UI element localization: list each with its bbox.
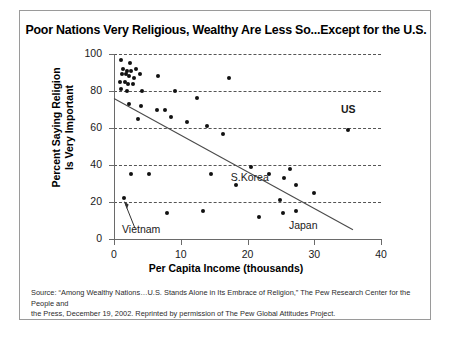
data-point <box>205 124 209 128</box>
data-point <box>173 89 177 93</box>
y-tick-20 <box>109 202 115 203</box>
x-tick-10 <box>181 239 182 245</box>
y-tick-label-100: 100 <box>72 47 102 59</box>
y-axis-title: Percent Saying Religion Is Very Importan… <box>50 48 75 208</box>
source-line-2: the Press, December 19, 2002. Reprinted … <box>31 309 423 320</box>
data-point <box>136 117 140 121</box>
data-point <box>139 104 143 108</box>
x-tick-label-10: 10 <box>166 248 196 260</box>
plot-area: USS.KoreaJapanVietnam <box>114 54 381 239</box>
data-point <box>346 128 350 132</box>
annotation-japan: Japan <box>289 219 318 231</box>
trend-line <box>114 98 353 229</box>
annotation-vietnam: Vietnam <box>122 223 160 235</box>
overlay-lines <box>114 54 381 239</box>
x-tick-20 <box>248 239 249 245</box>
data-point <box>294 183 298 187</box>
data-point <box>312 191 316 195</box>
data-point <box>155 108 159 112</box>
data-point <box>288 167 292 171</box>
data-point <box>163 108 167 112</box>
x-tick-label-30: 30 <box>299 248 329 260</box>
y-tick-60 <box>109 128 115 129</box>
data-point <box>134 67 138 71</box>
y-tick-40 <box>109 165 115 166</box>
y-tick-label-80: 80 <box>72 84 102 96</box>
x-axis-title: Per Capita Income (thousands) <box>20 262 432 274</box>
x-tick-40 <box>381 239 382 245</box>
y-tick-label-20: 20 <box>72 195 102 207</box>
chart-figure: Poor Nations Very Religious, Wealthy Are… <box>19 10 431 320</box>
data-point <box>282 176 286 180</box>
data-point <box>221 132 225 136</box>
x-tick-label-0: 0 <box>99 248 129 260</box>
data-point <box>126 82 130 86</box>
annotation-s-korea: S.Korea <box>231 171 269 183</box>
annotation-us: US <box>341 103 356 115</box>
data-point <box>131 82 135 86</box>
data-point <box>147 172 151 176</box>
source-line-1: Source: “Among Wealthy Nations…U.S. Stan… <box>31 288 423 309</box>
data-point <box>140 89 144 93</box>
y-tick-label-60: 60 <box>72 121 102 133</box>
x-tick-label-20: 20 <box>233 248 263 260</box>
data-point <box>119 58 123 62</box>
data-point <box>278 198 282 202</box>
data-point <box>281 211 285 215</box>
data-point <box>257 215 261 219</box>
x-tick-label-40: 40 <box>366 248 396 260</box>
chart-title: Poor Nations Very Religious, Wealthy Are… <box>20 23 432 37</box>
x-tick-30 <box>314 239 315 245</box>
source-note: Source: “Among Wealthy Nations…U.S. Stan… <box>31 288 423 320</box>
y-tick-100 <box>109 54 115 55</box>
x-tick-0 <box>114 239 115 245</box>
y-tick-80 <box>109 91 115 92</box>
data-point <box>118 80 122 84</box>
y-tick-label-0: 0 <box>72 232 102 244</box>
y-tick-label-40: 40 <box>72 158 102 170</box>
data-point <box>249 165 253 169</box>
y-axis-title-line1: Percent Saying Religion <box>50 48 63 208</box>
